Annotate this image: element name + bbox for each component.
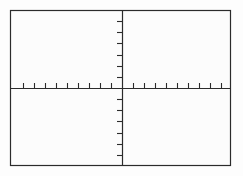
graph-screenshot (0, 0, 243, 176)
coordinate-axes (0, 0, 243, 176)
